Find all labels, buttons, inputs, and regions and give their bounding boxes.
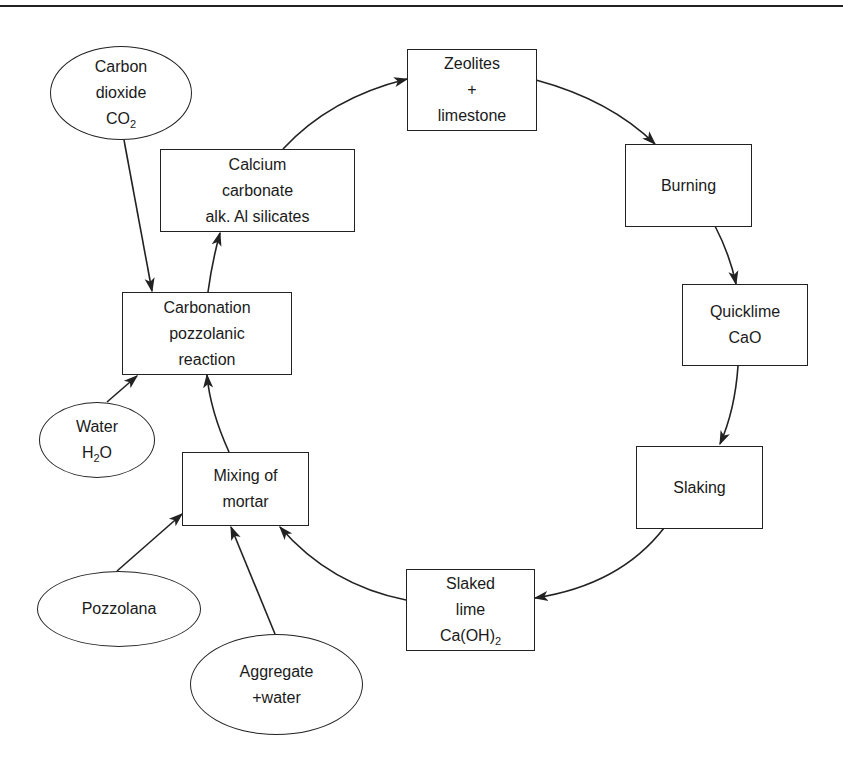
edge-zeolites-to-burning: [536, 80, 655, 144]
node-burning: Burning: [625, 144, 752, 227]
node-label: mortar: [222, 489, 268, 515]
node-label: reaction: [179, 347, 236, 373]
node-carbon-dioxide: Carbon dioxide CO2: [50, 46, 192, 140]
lime-cycle-diagram: Zeolites + limestone Burning Quicklime C…: [0, 0, 843, 769]
node-label: Carbonation: [163, 295, 250, 321]
node-label: Slaking: [673, 475, 725, 501]
node-label: Aggregate: [240, 659, 314, 685]
node-label: lime: [456, 597, 485, 623]
node-pozzolana: Pozzolana: [37, 571, 201, 647]
edge-mixing-to-carbonation: [207, 375, 229, 452]
node-label: Quicklime: [710, 299, 780, 325]
node-label: Pozzolana: [82, 596, 157, 622]
node-slaked-lime: Slaked lime Ca(OH)2: [406, 569, 535, 651]
node-aggregate-water: Aggregate +water: [190, 634, 363, 735]
node-label: limestone: [438, 103, 506, 129]
edge-calcium-carbonate-to-zeolites: [283, 79, 407, 149]
node-zeolites-limestone: Zeolites + limestone: [407, 49, 537, 131]
edge-aggregate-to-mixing: [231, 527, 275, 634]
node-label: Burning: [661, 173, 716, 199]
node-quicklime: Quicklime CaO: [682, 284, 808, 366]
node-label: dioxide: [96, 80, 147, 106]
edge-water-to-carbonation: [107, 376, 137, 402]
edge-burning-to-quicklime: [715, 226, 736, 284]
node-label: carbonate: [222, 178, 293, 204]
edge-carbonation-to-calcium-carbonate: [208, 233, 220, 292]
edge-pozzolana-to-mixing: [117, 514, 182, 571]
node-water: Water H2O: [39, 402, 155, 478]
edge-quicklime-to-slaking: [720, 366, 738, 444]
node-label: CaO: [729, 325, 762, 351]
node-label: Zeolites: [444, 51, 500, 77]
node-label: Carbon: [95, 54, 147, 80]
node-label-formula: H2O: [82, 440, 112, 466]
node-mixing-of-mortar: Mixing of mortar: [182, 452, 309, 526]
node-carbonation-pozzolanic-reaction: Carbonation pozzolanic reaction: [122, 292, 292, 375]
node-label: Calcium: [229, 152, 287, 178]
edge-co2-to-carbonation: [124, 140, 152, 291]
node-label: Water: [76, 414, 118, 440]
node-calcium-carbonate: Calcium carbonate alk. Al silicates: [160, 149, 355, 232]
edge-slaking-to-slaked-lime: [535, 528, 664, 598]
node-label: pozzolanic: [169, 321, 245, 347]
edge-slaked-lime-to-mixing: [280, 527, 406, 600]
node-slaking: Slaking: [636, 446, 763, 529]
node-label: Mixing of: [213, 463, 277, 489]
node-label: Slaked: [446, 571, 495, 597]
node-label-formula: Ca(OH)2: [440, 623, 501, 649]
node-label: alk. Al silicates: [205, 204, 309, 230]
node-label: +: [467, 77, 476, 103]
node-label-formula: CO2: [106, 106, 136, 132]
node-label: +water: [252, 685, 300, 711]
